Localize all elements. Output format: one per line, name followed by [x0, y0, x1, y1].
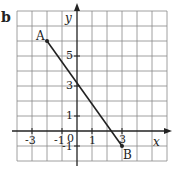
segment-ab [47, 41, 122, 146]
point-a-label: A [36, 30, 45, 42]
y-axis-arrow-icon [74, 3, 80, 11]
coordinate-grid [0, 0, 174, 173]
point-a [45, 39, 49, 43]
y-tick-label: 3 [66, 80, 73, 91]
y-tick-label: -1 [62, 141, 73, 152]
x-axis-label: x [153, 136, 160, 148]
point-b-label: B [123, 149, 132, 161]
x-tick-label: 3 [119, 134, 126, 145]
x-tick-label: 1 [89, 135, 96, 146]
y-axis-label: y [65, 12, 72, 24]
x-axis-arrow-icon [164, 128, 172, 134]
y-tick-label: 1 [66, 110, 73, 121]
x-tick-label: -3 [25, 135, 36, 146]
y-tick-label: 5 [66, 50, 73, 61]
